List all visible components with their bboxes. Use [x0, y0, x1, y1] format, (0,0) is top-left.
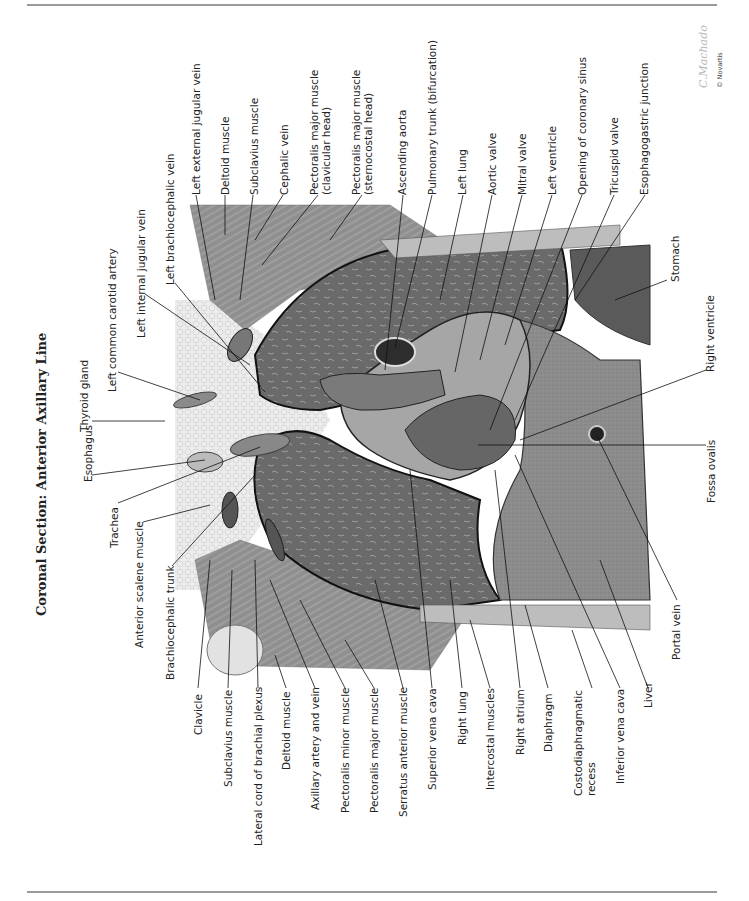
label-cephalic-vein: Cephalic vein: [278, 124, 290, 195]
label-mitral-valve: Mitral valve: [516, 134, 528, 195]
label-pectoralis-major-muscle: Pectoralis major muscle: [368, 688, 380, 813]
label-right-lung: Right lung: [456, 691, 468, 745]
label-axillary-artery-and-vein: Axillary artery and vein: [309, 687, 321, 810]
label-subclavius-muscle-bottom: Subclavius muscle: [222, 690, 234, 787]
clavicle-bone: [207, 625, 263, 675]
label-pectoralis-major-sternocostal: Pectoralis major muscle: [350, 70, 362, 195]
label-intercostal-muscles: Intercostal muscles: [484, 688, 496, 790]
label-brachiocephalic-trunk: Brachiocephalic trunk: [164, 566, 176, 680]
label-anterior-scalene-muscle: Anterior scalene muscle: [133, 521, 145, 648]
label-pectoralis-minor-muscle: Pectoralis minor muscle: [339, 687, 351, 813]
label-portal-vein: Portal vein: [670, 604, 682, 660]
portal-vein: [589, 426, 605, 442]
label-recess: recess: [585, 762, 597, 796]
label-left-common-carotid-artery: Left common carotid artery: [106, 248, 118, 392]
label-opening-coronary-sinus: Opening of coronary sinus: [576, 57, 588, 195]
label-lateral-cord-brachial-plexus: Lateral cord of brachial plexus: [252, 687, 264, 846]
label-fossa-ovalis: Fossa ovalis: [705, 440, 717, 503]
label-stomach: Stomach: [669, 236, 681, 282]
label-clavicle: Clavicle: [192, 694, 204, 735]
label-tricuspid-valve: Tricuspid valve: [608, 117, 620, 195]
pulmonary-trunk: [375, 338, 415, 366]
stomach: [570, 245, 650, 345]
label-sternocostal-head: (sternocostal head): [362, 93, 374, 195]
label-clavicular-head: (clavicular head): [320, 107, 332, 195]
label-pectoralis-major-clavicular: Pectoralis major muscle: [308, 70, 320, 195]
label-liver: Liver: [642, 682, 654, 708]
label-superior-vena-cava: Superior vena cava: [426, 688, 438, 790]
label-esophagogastric-junction: Esophagogastric junction: [638, 62, 650, 195]
label-inferior-vena-cava: Inferior vena cava: [614, 689, 626, 784]
label-trachea: Trachea: [108, 507, 120, 548]
page-title: Coronal Section: Anterior Axillary Line: [34, 333, 49, 616]
artist-signature: C.Machado: [697, 25, 710, 88]
label-right-atrium: Right atrium: [514, 689, 526, 755]
label-ascending-aorta: Ascending aorta: [396, 109, 408, 195]
label-diaphragm: Diaphragm: [542, 694, 554, 752]
label-deltoid-muscle-top: Deltoid muscle: [219, 117, 231, 195]
label-deltoid-muscle-bottom: Deltoid muscle: [280, 692, 292, 770]
label-left-brachiocephalic-vein: Left brachiocephalic vein: [164, 154, 176, 285]
label-right-ventricle: Right ventricle: [704, 295, 716, 372]
label-serratus-anterior-muscle: Serratus anterior muscle: [397, 687, 409, 817]
label-esophagus: Esophagus: [82, 425, 94, 482]
label-left-ventricle: Left ventricle: [546, 126, 558, 195]
label-left-lung: Left lung: [456, 149, 468, 195]
label-subclavius-muscle-top: Subclavius muscle: [248, 98, 260, 195]
label-thyroid-gland: Thyroid gland: [78, 360, 90, 432]
label-pulmonary-trunk: Pulmonary trunk (bifurcation): [426, 40, 438, 195]
label-left-internal-jugular-vein: Left internal jugular vein: [135, 209, 147, 338]
label-left-external-jugular-vein: Left external jugular vein: [190, 63, 202, 195]
copyright: © Novartis: [716, 52, 724, 88]
label-aortic-valve: Aortic valve: [486, 133, 498, 195]
brachiocephalic-trunk: [222, 492, 238, 528]
label-costodiaphragmatic: Costodiaphragmatic: [572, 690, 584, 796]
